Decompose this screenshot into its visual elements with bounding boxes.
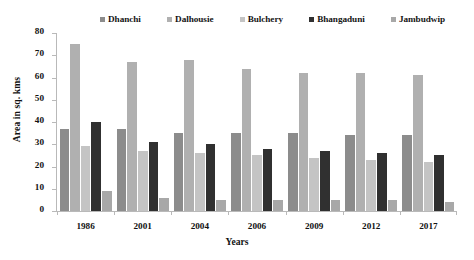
- bar-dalhousie-2012: [356, 73, 366, 211]
- x-axis-tick-label: 2001: [114, 222, 171, 231]
- legend-label: Jambudwip: [399, 15, 445, 24]
- bar-dhanchi-1986: [60, 129, 70, 211]
- y-axis-tick-label: 10: [35, 183, 44, 192]
- bar-bhangaduni-2012: [377, 153, 387, 211]
- x-axis-title: Years: [0, 236, 474, 247]
- bar-dhanchi-2012: [345, 135, 355, 211]
- y-axis-tick-label: 0: [39, 205, 44, 214]
- y-axis-tick-mark: [52, 122, 56, 123]
- legend-swatch-icon: [309, 17, 314, 22]
- y-axis-tick-mark: [52, 33, 56, 34]
- x-axis-tick-mark: [286, 211, 287, 215]
- legend-swatch-icon: [240, 17, 245, 22]
- bar-bulchery-2001: [138, 151, 148, 211]
- bar-dhanchi-2009: [288, 133, 298, 211]
- bar-jambudwip-2009: [331, 200, 341, 211]
- y-axis-tick-label: 70: [35, 49, 44, 58]
- bar-bulchery-2004: [195, 153, 205, 211]
- y-axis-tick-mark: [52, 100, 56, 101]
- bar-dalhousie-2001: [127, 62, 137, 211]
- chart-legend: DhanchiDalhousieBulcheryBhangaduniJambud…: [100, 13, 445, 27]
- legend-swatch-icon: [391, 17, 396, 22]
- legend-label: Bulchery: [248, 15, 283, 24]
- bar-dalhousie-2017: [413, 75, 423, 211]
- y-axis-tick-mark: [52, 211, 56, 212]
- bar-dhanchi-2004: [174, 133, 184, 211]
- bar-groups: 1986200120042006200920122017: [57, 33, 457, 211]
- bar-bhangaduni-2009: [320, 151, 330, 211]
- y-axis-tick-label: 40: [35, 116, 44, 125]
- y-axis-tick-mark: [52, 144, 56, 145]
- bar-bhangaduni-1986: [91, 122, 101, 211]
- bar-dalhousie-2004: [184, 60, 194, 211]
- y-axis-tick-label: 30: [35, 138, 44, 147]
- y-axis-tick-label: 20: [35, 161, 44, 170]
- legend-item-bulchery[interactable]: Bulchery: [240, 15, 283, 24]
- bar-group: 2009: [286, 33, 343, 211]
- legend-item-jambudwip[interactable]: Jambudwip: [391, 15, 445, 24]
- bar-group: 2017: [400, 33, 457, 211]
- bar-group: 2001: [114, 33, 171, 211]
- bar-bhangaduni-2006: [263, 149, 273, 211]
- x-axis-line: [56, 211, 457, 212]
- x-axis-tick-mark: [400, 211, 401, 215]
- bar-jambudwip-2001: [159, 198, 169, 211]
- x-axis-tick-mark: [57, 211, 58, 215]
- bar-dhanchi-2006: [231, 133, 241, 211]
- bar-bhangaduni-2017: [434, 155, 444, 211]
- bar-bulchery-2009: [309, 158, 319, 211]
- legend-item-bhangaduni[interactable]: Bhangaduni: [309, 15, 365, 24]
- bar-jambudwip-2004: [216, 200, 226, 211]
- bar-bulchery-1986: [81, 146, 91, 211]
- bar-jambudwip-1986: [102, 191, 112, 211]
- bar-bhangaduni-2001: [149, 142, 159, 211]
- x-axis-tick-mark: [228, 211, 229, 215]
- bar-dalhousie-1986: [70, 44, 80, 211]
- legend-label: Dhanchi: [108, 15, 141, 24]
- y-axis-tick-mark: [52, 55, 56, 56]
- bar-dalhousie-2006: [242, 69, 252, 211]
- bar-group: 1986: [57, 33, 114, 211]
- bar-group: 2004: [171, 33, 228, 211]
- y-axis-tick-mark: [52, 189, 56, 190]
- bar-bulchery-2012: [366, 160, 376, 211]
- x-axis-tick-label: 1986: [57, 222, 114, 231]
- x-axis-tick-mark: [456, 211, 457, 215]
- y-axis-tick-mark: [52, 167, 56, 168]
- x-axis-tick-label: 2006: [228, 222, 285, 231]
- y-axis-tick-label: 80: [35, 27, 44, 36]
- bar-group: 2012: [343, 33, 400, 211]
- x-axis-tick-label: 2012: [343, 222, 400, 231]
- bar-jambudwip-2012: [388, 200, 398, 211]
- y-axis-tick-label: 60: [35, 72, 44, 81]
- bar-dalhousie-2009: [299, 73, 309, 211]
- legend-item-dalhousie[interactable]: Dalhousie: [167, 15, 213, 24]
- y-axis-title: Area in sq. kms: [11, 55, 22, 165]
- legend-label: Bhangaduni: [317, 15, 365, 24]
- bar-bhangaduni-2004: [206, 144, 216, 211]
- y-axis-tick-mark: [52, 78, 56, 79]
- x-axis-tick-mark: [343, 211, 344, 215]
- bar-bulchery-2006: [252, 155, 262, 211]
- bar-dhanchi-2001: [117, 129, 127, 211]
- bar-bulchery-2017: [424, 162, 434, 211]
- bar-group: 2006: [228, 33, 285, 211]
- legend-swatch-icon: [100, 17, 105, 22]
- grouped-bar-chart: DhanchiDalhousieBulcheryBhangaduniJambud…: [0, 0, 474, 260]
- bar-jambudwip-2017: [445, 202, 455, 211]
- bar-dhanchi-2017: [402, 135, 412, 211]
- bar-jambudwip-2006: [273, 200, 283, 211]
- legend-label: Dalhousie: [175, 15, 213, 24]
- x-axis-tick-label: 2004: [171, 222, 228, 231]
- legend-swatch-icon: [167, 17, 172, 22]
- plot-area: 01020304050607080 1986200120042006200920…: [57, 33, 457, 211]
- y-axis-tick-label: 50: [35, 94, 44, 103]
- x-axis-tick-label: 2009: [286, 222, 343, 231]
- legend-item-dhanchi[interactable]: Dhanchi: [100, 15, 141, 24]
- x-axis-tick-label: 2017: [400, 222, 457, 231]
- x-axis-tick-mark: [114, 211, 115, 215]
- x-axis-tick-mark: [171, 211, 172, 215]
